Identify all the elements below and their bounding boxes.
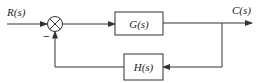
feedback-block: H(s) [124, 54, 163, 80]
feedback-block-label: H(s) [133, 61, 154, 74]
forward-block-label: G(s) [129, 18, 149, 31]
forward-block: G(s) [115, 12, 163, 35]
feedback-takeoff-arrow [163, 23, 222, 67]
block-diagram: R(s) − G(s) C(s) H(s) [0, 0, 258, 83]
feedback-return-arrow [55, 32, 124, 68]
output-label: C(s) [232, 4, 251, 17]
input-label: R(s) [6, 6, 26, 19]
diagram-svg: R(s) − G(s) C(s) H(s) [0, 0, 258, 83]
minus-sign: − [43, 30, 49, 42]
summing-junction [48, 17, 63, 32]
